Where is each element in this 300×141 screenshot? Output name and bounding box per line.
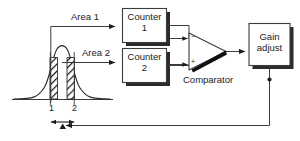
comparator-label: Comparator <box>183 75 233 85</box>
gate-region-2 <box>67 58 75 100</box>
gain-adjust-label-line1: Gain <box>250 32 289 42</box>
gate-tick-label-2: 2 <box>72 104 77 114</box>
gain-adjust-label-line2: adjust <box>250 43 289 53</box>
center-marker-triangle <box>60 124 67 129</box>
gate-tick-label-1: 1 <box>49 104 54 114</box>
diagram-canvas: Area 1 Area 2 Counter 1 Counter 2 − + Co… <box>0 0 300 141</box>
counter2-label-line1: Counter <box>124 52 165 62</box>
counter1-label-line1: Counter <box>124 12 165 22</box>
feedback-junction-dot <box>267 77 271 81</box>
counter2-label-line2: 2 <box>124 63 165 73</box>
area1-label: Area 1 <box>71 12 99 22</box>
counter1-label-line2: 1 <box>124 23 165 33</box>
comparator-plus-input-label: + <box>191 58 195 66</box>
comparator-minus-input-label: − <box>191 33 195 41</box>
area2-label: Area 2 <box>82 48 110 58</box>
